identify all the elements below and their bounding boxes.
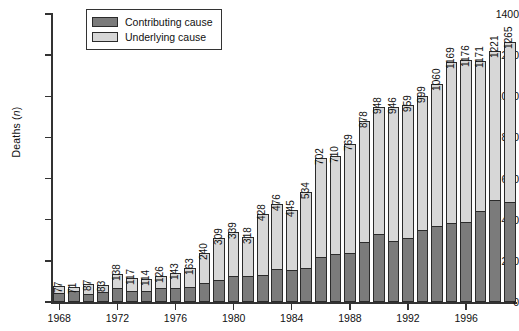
bar-value-label: 878 bbox=[358, 111, 369, 128]
bar-1995 bbox=[446, 62, 458, 302]
bar-1984 bbox=[286, 210, 298, 302]
legend-swatch-contrib bbox=[92, 17, 118, 27]
bar-segment-contributing-cause bbox=[156, 288, 166, 301]
y-axis-title-suffix: ) bbox=[10, 106, 22, 110]
bar-segment-contributing-cause bbox=[229, 276, 239, 301]
bar-value-label: 959 bbox=[402, 95, 413, 112]
bar-segment-contributing-cause bbox=[316, 257, 326, 301]
bar-1991 bbox=[388, 107, 400, 302]
bar-segment-contributing-cause bbox=[432, 226, 442, 301]
y-axis-tick bbox=[45, 260, 52, 261]
x-axis-tick bbox=[117, 303, 118, 310]
x-axis-tick bbox=[291, 303, 292, 310]
bar-segment-contributing-cause bbox=[200, 283, 210, 301]
x-axis-tick bbox=[407, 303, 408, 310]
legend-swatch-under bbox=[92, 32, 118, 42]
bar-segment-contributing-cause bbox=[185, 287, 195, 301]
bar-value-label: 1221 bbox=[489, 35, 500, 58]
bar-segment-contributing-cause bbox=[84, 294, 94, 301]
x-axis-tick-label: 1984 bbox=[280, 312, 303, 324]
bar-value-label: 1060 bbox=[431, 68, 442, 91]
bar-segment-contributing-cause bbox=[418, 230, 428, 301]
bar-1985 bbox=[300, 192, 312, 302]
legend-item: Underlying cause bbox=[92, 30, 213, 44]
y-axis-tick bbox=[45, 301, 52, 302]
bar-segment-contributing-cause bbox=[258, 275, 268, 301]
x-axis-tick bbox=[175, 303, 176, 310]
bar-segment-contributing-cause bbox=[345, 253, 355, 301]
bar-segment-contributing-cause bbox=[447, 223, 457, 301]
bar-value-label: 1169 bbox=[445, 47, 456, 69]
bar-segment-contributing-cause bbox=[403, 238, 413, 301]
bar-1989 bbox=[359, 121, 371, 302]
bar-value-label: 126 bbox=[154, 266, 165, 283]
bar-value-label: 476 bbox=[271, 194, 282, 211]
x-axis-tick-label: 1976 bbox=[164, 312, 187, 324]
x-axis-tick-label: 1968 bbox=[48, 312, 71, 324]
chart-legend: Contributing causeUnderlying cause bbox=[86, 9, 222, 50]
bar-1993 bbox=[417, 96, 429, 302]
bar-1997 bbox=[475, 61, 487, 302]
bar-value-label: 77 bbox=[53, 282, 64, 293]
bar-segment-contributing-cause bbox=[389, 241, 399, 301]
y-axis-tick-label: 1400 bbox=[475, 8, 519, 20]
bar-value-label: 71 bbox=[67, 283, 78, 294]
bar-value-label: 1171 bbox=[474, 46, 485, 68]
bar-1980 bbox=[228, 232, 240, 302]
bar-value-label: 117 bbox=[125, 269, 136, 285]
legend-item: Contributing cause bbox=[92, 15, 213, 29]
bar-value-label: 946 bbox=[387, 97, 398, 114]
bar-segment-contributing-cause bbox=[243, 276, 253, 301]
bar-segment-contributing-cause bbox=[142, 291, 152, 301]
bar-value-label: 948 bbox=[372, 97, 383, 114]
y-axis-tick bbox=[45, 13, 52, 14]
bar-value-label: 534 bbox=[300, 182, 311, 199]
bar-segment-contributing-cause bbox=[127, 291, 137, 301]
bar-1998 bbox=[489, 51, 501, 302]
x-axis-tick bbox=[59, 303, 60, 310]
bar-value-label: 428 bbox=[256, 204, 267, 221]
bar-value-label: 1176 bbox=[460, 45, 471, 67]
bar-segment-contributing-cause bbox=[476, 211, 486, 301]
bar-segment-contributing-cause bbox=[331, 254, 341, 301]
bar-segment-contributing-cause bbox=[301, 268, 311, 301]
y-axis-tick bbox=[45, 54, 52, 55]
y-axis-tick bbox=[45, 178, 52, 179]
bar-1982 bbox=[257, 214, 269, 302]
x-axis-tick-label: 1980 bbox=[222, 312, 245, 324]
bar-segment-contributing-cause bbox=[98, 292, 108, 301]
y-axis-title: Deaths (n) bbox=[10, 84, 22, 180]
bar-1992 bbox=[402, 105, 414, 302]
x-axis-line bbox=[51, 302, 517, 304]
bar-value-label: 1265 bbox=[503, 26, 514, 49]
bar-value-label: 114 bbox=[140, 269, 151, 285]
bar-1979 bbox=[213, 238, 225, 302]
bar-segment-contributing-cause bbox=[171, 288, 181, 301]
y-axis-tick bbox=[45, 137, 52, 138]
bar-value-label: 87 bbox=[82, 280, 93, 291]
bar-value-label: 318 bbox=[242, 227, 253, 244]
bar-1983 bbox=[271, 204, 283, 302]
x-axis-tick-label: 1992 bbox=[396, 312, 419, 324]
bar-value-label: 138 bbox=[111, 264, 122, 281]
bar-value-label: 143 bbox=[169, 263, 180, 280]
y-axis-title-prefix: Deaths ( bbox=[10, 116, 22, 157]
bar-segment-contributing-cause bbox=[461, 222, 471, 301]
bar-segment-contributing-cause bbox=[113, 288, 123, 301]
bar-value-label: 999 bbox=[416, 86, 427, 103]
bar-value-label: 769 bbox=[343, 134, 354, 151]
bar-segment-contributing-cause bbox=[54, 293, 64, 301]
bar-1981 bbox=[242, 237, 254, 302]
bar-value-label: 339 bbox=[227, 222, 238, 239]
bar-1987 bbox=[330, 156, 342, 302]
bar-segment-contributing-cause bbox=[214, 280, 224, 301]
y-axis-tick bbox=[45, 96, 52, 97]
bar-segment-contributing-cause bbox=[490, 200, 500, 301]
bar-1986 bbox=[315, 158, 327, 302]
y-axis-title-italic-n: n bbox=[10, 110, 22, 116]
x-axis-tick bbox=[349, 303, 350, 310]
bar-1994 bbox=[431, 84, 443, 302]
bar-1996 bbox=[460, 60, 472, 302]
bar-1988 bbox=[344, 144, 356, 302]
bar-1990 bbox=[373, 107, 385, 302]
